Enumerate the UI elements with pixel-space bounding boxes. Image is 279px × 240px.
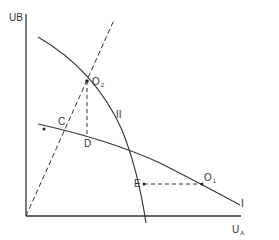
point-O2 bbox=[85, 79, 89, 83]
label-curve-I: I bbox=[241, 199, 244, 209]
x-axis-label: UA bbox=[232, 225, 244, 236]
curve-II bbox=[38, 37, 146, 223]
label-O2: O2 bbox=[92, 77, 104, 88]
label-O1-main: O bbox=[204, 172, 212, 183]
label-D: D bbox=[84, 139, 91, 149]
x-axis-label-main: U bbox=[232, 224, 239, 235]
label-O2-sub: 2 bbox=[101, 82, 104, 88]
label-O1: O1 bbox=[204, 173, 216, 184]
y-axis-label: UB bbox=[9, 13, 23, 23]
point-E bbox=[143, 183, 146, 186]
x-axis-label-sub: A bbox=[240, 230, 244, 236]
point-C bbox=[43, 128, 46, 131]
label-O2-main: O bbox=[92, 76, 100, 87]
label-curve-II: II bbox=[116, 110, 122, 120]
label-O1-sub: 1 bbox=[213, 178, 216, 184]
diagram-canvas: UB UA O2 O1 C D E II I bbox=[0, 0, 279, 240]
diagram-svg bbox=[0, 0, 279, 240]
dashed-ray bbox=[26, 20, 114, 216]
label-E: E bbox=[134, 179, 141, 189]
label-C: C bbox=[58, 117, 65, 127]
curve-I bbox=[38, 124, 240, 205]
